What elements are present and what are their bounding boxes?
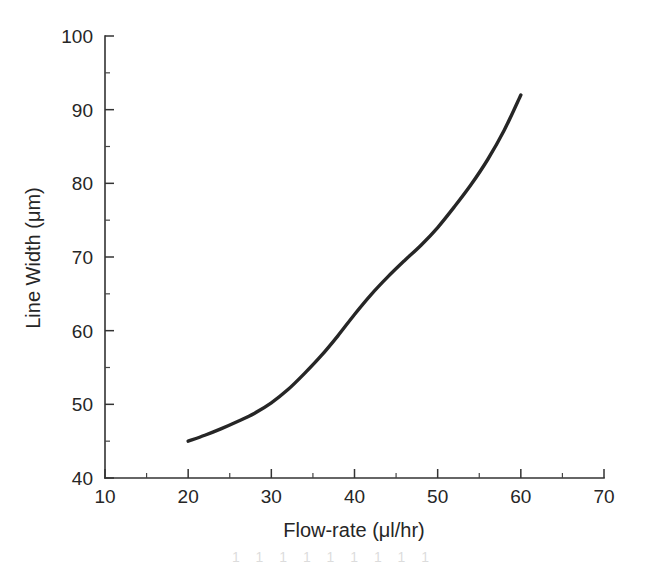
x-axis-title: Flow-rate (μl/hr) [283, 519, 425, 541]
y-tick-label: 90 [72, 100, 93, 121]
y-tick-label: 100 [61, 26, 93, 47]
x-tick-label: 60 [510, 486, 531, 507]
y-tick-label: 60 [72, 321, 93, 342]
y-tick-label: 40 [72, 468, 93, 489]
y-tick-label: 50 [72, 394, 93, 415]
x-tick-label: 50 [427, 486, 448, 507]
x-tick-label: 20 [178, 486, 199, 507]
x-tick-label: 40 [344, 486, 365, 507]
y-tick-label: 80 [72, 173, 93, 194]
y-axis-ticks [105, 36, 114, 478]
x-axis-tick-labels: 10203040506070 [94, 486, 614, 507]
data-series-group [188, 95, 521, 441]
scan-caption-fragment: 1 1 1 1 1 1 1 1 1 [0, 549, 667, 569]
x-tick-label: 30 [261, 486, 282, 507]
data-curve [188, 95, 521, 441]
y-axis-title: Line Width (μm) [22, 187, 44, 329]
y-tick-label: 70 [72, 247, 93, 268]
x-axis-ticks [105, 469, 604, 478]
x-tick-label: 10 [94, 486, 115, 507]
x-tick-label: 70 [593, 486, 614, 507]
y-axis-tick-labels: 405060708090100 [61, 26, 93, 489]
chart-svg: 10203040506070 405060708090100 Flow-rate… [0, 0, 667, 569]
figure-container: 10203040506070 405060708090100 Flow-rate… [0, 0, 667, 569]
